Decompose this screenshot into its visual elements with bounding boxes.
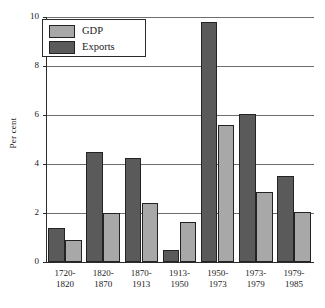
bar-gdp — [65, 240, 82, 262]
bar-exports — [86, 152, 103, 262]
legend: GDP Exports — [42, 19, 146, 57]
bar-group — [276, 17, 314, 262]
bar-exports — [163, 250, 180, 262]
y-tick-mark — [43, 262, 47, 263]
bar-group — [161, 17, 199, 262]
bar-group — [238, 17, 276, 262]
bar-exports — [239, 114, 256, 262]
bar-exports — [125, 158, 142, 262]
bar-gdp — [142, 203, 159, 262]
bar-gdp — [294, 212, 311, 262]
y-tick-label-8: 8 — [19, 61, 39, 70]
y-axis-label: Per cent — [8, 98, 18, 168]
bar-gdp — [103, 213, 120, 262]
bar-exports — [48, 228, 65, 262]
bar-exports — [201, 22, 218, 262]
bar-gdp — [218, 125, 235, 262]
legend-label-gdp: GDP — [82, 24, 103, 37]
y-tick-label-0: 0 — [19, 257, 39, 266]
y-tick-label-2: 2 — [19, 208, 39, 217]
bar-group — [200, 17, 238, 262]
bar-gdp — [180, 222, 197, 262]
bar-exports — [277, 176, 294, 262]
y-tick-label-4: 4 — [19, 159, 39, 168]
bar-gdp — [256, 192, 273, 262]
y-tick-label-6: 6 — [19, 110, 39, 119]
bar-chart: Per cent 0246810 1720-18201820-18701870-… — [0, 0, 325, 308]
legend-swatch-gdp — [49, 25, 75, 38]
legend-label-exports: Exports — [82, 40, 115, 53]
y-tick-label-10: 10 — [19, 12, 39, 21]
legend-swatch-exports — [49, 41, 75, 54]
x-tick-label-1979-1985: 1979-1985 — [271, 268, 317, 289]
